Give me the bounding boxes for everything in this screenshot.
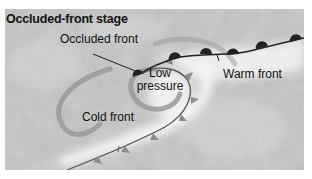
warm-front-label: Warm front bbox=[223, 68, 282, 81]
low-pressure-line2: pressure bbox=[130, 80, 190, 93]
occluded-front-label: Occluded front bbox=[60, 33, 138, 46]
low-pressure-label: Low pressure bbox=[130, 67, 190, 93]
cold-front-label: Cold front bbox=[82, 111, 134, 124]
diagram-title: Occluded-front stage bbox=[6, 12, 128, 26]
